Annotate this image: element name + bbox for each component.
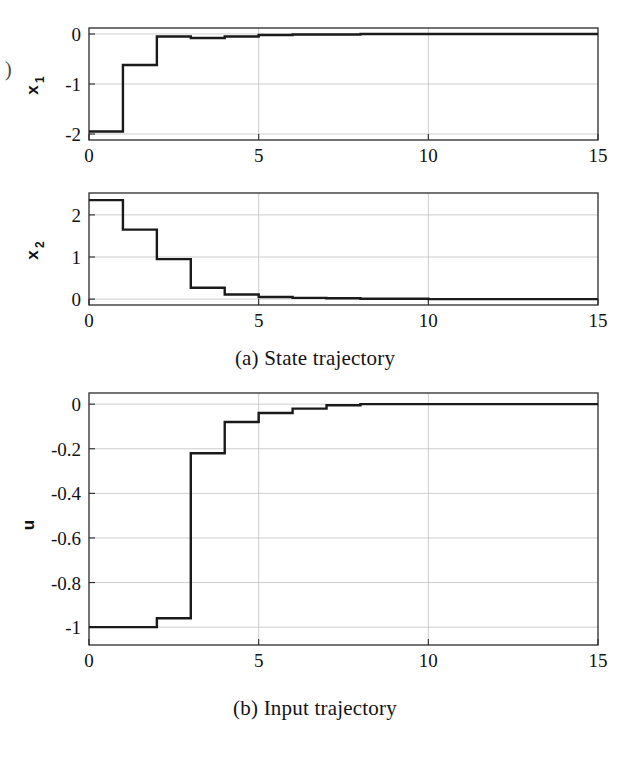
x-tick-label: 10 [419, 145, 438, 165]
x-tick-label: 15 [589, 650, 608, 670]
y-tick-label: -0.4 [51, 483, 82, 504]
y-tick-label: 1 [72, 247, 82, 268]
y-axis-title: x1 [23, 76, 47, 95]
y-tick-label: -0.2 [51, 439, 81, 460]
x-tick-label: 5 [254, 310, 264, 330]
y-tick-label: -0.6 [51, 528, 81, 549]
y-axis-title-base: x [23, 85, 42, 95]
x-tick-label: 0 [84, 310, 94, 330]
y-tick-label: 2 [72, 205, 82, 226]
caption-a: (a) State trajectory [0, 346, 630, 371]
y-axis-title-base: u [19, 520, 38, 530]
caption-b: (b) Input trajectory [0, 696, 630, 721]
y-tick-label: -1 [65, 617, 81, 638]
plot-x2: 012051015Timex2 [0, 185, 630, 330]
x-tick-label: 15 [589, 145, 608, 165]
plot-u: 0-0.2-0.4-0.6-0.8-1051015Timeu [0, 385, 630, 670]
x-tick-label: 0 [84, 650, 94, 670]
plot-panel-x2: 012051015Timex2 [0, 185, 630, 330]
y-axis-title-base: x [23, 250, 42, 260]
x-tick-label: 10 [419, 650, 438, 670]
x-tick-label: 10 [419, 310, 438, 330]
y-tick-label: -2 [65, 124, 81, 145]
plot-frame [89, 193, 598, 305]
x-tick-label: 5 [254, 650, 264, 670]
x-tick-label: 0 [84, 145, 94, 165]
x-tick-label: 15 [589, 310, 608, 330]
y-tick-label: 0 [72, 24, 82, 45]
y-tick-label: 0 [72, 289, 82, 310]
plot-x1: 0-1-2051015Timex1 [0, 20, 630, 165]
y-axis-title: x2 [23, 241, 47, 260]
y-tick-label: -0.8 [51, 573, 81, 594]
y-tick-label: -1 [65, 74, 81, 95]
x-tick-label: 5 [254, 145, 264, 165]
data-trace-x1 [89, 34, 598, 132]
data-trace-u [89, 404, 598, 627]
figure-root: ) 0-1-2051015Timex1 012051015Timex2 (a) … [0, 0, 630, 764]
plot-frame [89, 393, 598, 645]
y-tick-label: 0 [72, 394, 82, 415]
plot-panel-x1: 0-1-2051015Timex1 [0, 20, 630, 165]
y-axis-title: u [19, 520, 38, 530]
y-axis-title-subscript: 2 [33, 241, 47, 248]
plot-panel-u: 0-0.2-0.4-0.6-0.8-1051015Timeu [0, 385, 630, 670]
y-axis-title-subscript: 1 [33, 76, 47, 83]
